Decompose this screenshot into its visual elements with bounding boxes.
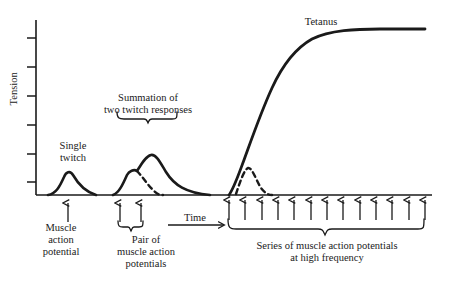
curve-tetanus-underlying-twitch-dashed (236, 168, 272, 195)
brace-series-action-potentials (228, 219, 424, 235)
annotation-pair-of-action-potentials: Pair of muscle action potentials (98, 234, 194, 269)
annotation-summation: Summation of two twitch responses (86, 92, 210, 116)
brace-pair-action-potentials (118, 221, 143, 231)
annotation-series-of-action-potentials: Series of muscle action potentials at hi… (232, 240, 422, 264)
y-axis-title: Tension (8, 59, 20, 119)
curve-tetanus (229, 29, 425, 195)
curve-single-twitch (48, 172, 96, 195)
curve-summation-first-twitch (113, 170, 137, 195)
curve-summation-first-twitch-decay-dashed (137, 171, 163, 195)
x-axis-title-time: Time (175, 212, 215, 224)
annotation-muscle-action-potential: Muscle action potential (30, 222, 92, 257)
y-axis-ticks (27, 38, 36, 182)
stimulus-arrows-series-group (229, 200, 425, 220)
annotation-tetanus: Tetanus (286, 16, 356, 28)
curve-summation-combined (137, 155, 210, 195)
stimulus-arrows-pair-group (120, 203, 141, 222)
annotation-single-twitch: Single twitch (45, 140, 101, 164)
figure-canvas: Tension Single twitch Summation of two t… (0, 0, 458, 288)
